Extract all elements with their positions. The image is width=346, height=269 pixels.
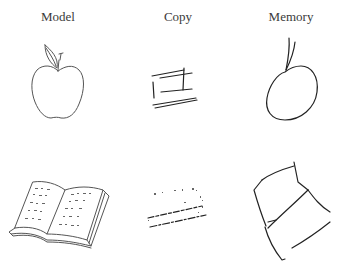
- book-copy-drawing: [140, 180, 220, 230]
- column-header-model: Model: [18, 9, 98, 25]
- book-model-drawing: [5, 170, 115, 250]
- column-header-memory: Memory: [251, 9, 331, 25]
- apple-model-drawing: [25, 40, 95, 125]
- apple-copy-drawing: [140, 60, 210, 110]
- apple-memory-drawing: [255, 30, 325, 125]
- column-header-copy: Copy: [138, 9, 218, 25]
- book-memory-drawing: [250, 160, 340, 265]
